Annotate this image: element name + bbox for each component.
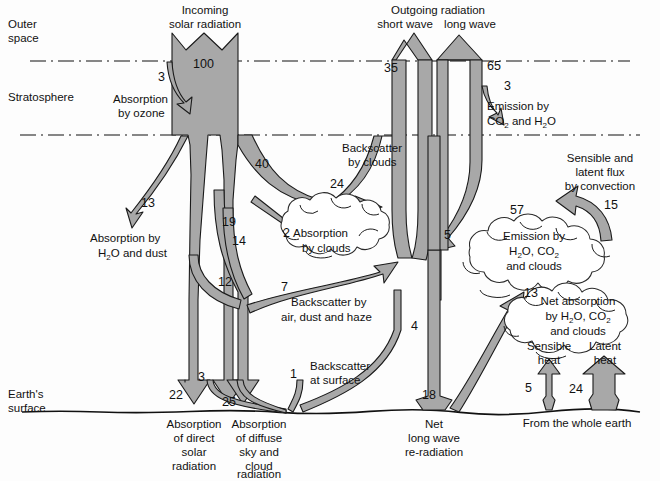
net-absorption-line1: Net absorption xyxy=(541,295,616,307)
absorption-direct-line3: solar xyxy=(182,446,207,458)
value-backscatter-clouds-24: 24 xyxy=(330,177,344,191)
value-absorption-clouds-2: 2 xyxy=(283,226,290,240)
value-outgoing-long-65: 65 xyxy=(487,59,501,73)
net-absorption-line3: and clouds xyxy=(550,325,606,337)
emission-co2-line1: Emission by xyxy=(487,100,549,112)
value-longwave-escape-5: 5 xyxy=(444,228,451,242)
label-from-whole-earth: From the whole earth xyxy=(523,417,632,429)
value-net-longwave-18: 18 xyxy=(422,388,436,402)
label-net-absorption: Net absorption by H2O, CO2 and clouds xyxy=(541,295,616,337)
value-convection-15: 15 xyxy=(604,198,618,212)
value-backscatter-surface-1: 1 xyxy=(290,367,297,381)
net-longwave-line1: Net xyxy=(425,418,444,430)
absorption-diffuse-line1: Absorption xyxy=(232,418,287,430)
value-emission-co2-3: 3 xyxy=(504,79,511,93)
value-net-absorption-13: 13 xyxy=(524,286,538,300)
net-longwave-line2: long wave xyxy=(408,432,460,444)
layer-label-earth-surface-line1: Earth's xyxy=(8,388,44,400)
value-backscatter-air-7: 7 xyxy=(281,280,288,294)
net-longwave-line3: re-radiation xyxy=(405,446,463,458)
radiation-balance-diagram: .arw { fill:#a8a8a8; stroke:#1a1a1a; str… xyxy=(0,0,660,481)
value-emission-clouds-57: 57 xyxy=(510,203,524,217)
value-incoming-solar-100: 100 xyxy=(193,57,214,71)
emission-clouds-line1: Emission by xyxy=(503,230,565,242)
value-latent-heat-24: 24 xyxy=(569,382,583,396)
absorption-diffuse-line5: radiation xyxy=(237,468,281,480)
value-branch-14: 14 xyxy=(232,234,246,248)
emission-clouds-line3: and clouds xyxy=(506,260,562,272)
value-absorption-diffuse-25: 25 xyxy=(222,395,236,409)
value-backscatter-surface-3: 3 xyxy=(198,370,205,384)
value-diffuse-40: 40 xyxy=(255,157,269,171)
outgoing-short-wave-label: short wave xyxy=(377,18,433,30)
value-outgoing-short-35: 35 xyxy=(384,61,398,75)
value-sensible-heat-5: 5 xyxy=(525,381,532,395)
absorption-diffuse-line2: of diffuse xyxy=(236,432,282,444)
backscatter-air-line1: Backscatter by xyxy=(291,296,367,308)
absorption-ozone-line1: Absorption xyxy=(113,93,168,105)
outgoing-radiation-line1: Outgoing radiation xyxy=(391,4,485,16)
absorption-h2o-dust-line1: Absorption by xyxy=(90,232,161,244)
absorption-clouds-line2: by clouds xyxy=(302,242,351,254)
layer-label-outer-space-line1: Outer xyxy=(8,18,37,30)
layer-label-earth-surface-line2: surface xyxy=(8,402,46,414)
backscatter-clouds-line2: by clouds xyxy=(348,156,397,168)
value-branch-12: 12 xyxy=(218,275,232,289)
sensible-latent-line1: Sensible and xyxy=(567,152,634,164)
latent-heat-line1: Latent xyxy=(589,340,622,352)
sensible-heat-line1: Sensible xyxy=(527,340,571,352)
label-emission-h2o-co2-clouds: Emission by H2O, CO2 and clouds xyxy=(503,230,565,272)
incoming-solar-line1: Incoming xyxy=(182,4,229,16)
backscatter-air-line2: air, dust and haze xyxy=(281,311,372,323)
sensible-heat-line2: heat xyxy=(538,354,561,366)
latent-heat-line2: heat xyxy=(594,354,617,366)
value-absorption-ozone-3: 3 xyxy=(158,70,165,84)
value-absorption-direct-22: 22 xyxy=(169,388,183,402)
value-absorption-h2o-dust-13: 13 xyxy=(141,196,155,210)
absorption-ozone-line2: by ozone xyxy=(118,107,165,119)
layer-label-outer-space-line2: space xyxy=(8,32,39,44)
backscatter-surface-line2: at surface xyxy=(310,374,361,386)
layer-label-stratosphere: Stratosphere xyxy=(8,91,74,103)
value-branch-19: 19 xyxy=(222,215,236,229)
sensible-latent-line2: latent flux xyxy=(575,166,624,178)
absorption-clouds-line1: Absorption xyxy=(293,227,348,239)
label-absorption-h2o-dust: Absorption by H2O and dust xyxy=(90,232,168,262)
absorption-direct-line4: radiation xyxy=(172,460,216,472)
backscatter-clouds-line1: Backscatter xyxy=(342,142,402,154)
absorption-diffuse-line3: sky and xyxy=(239,446,279,458)
sensible-latent-line3: by convection xyxy=(565,180,635,192)
value-longwave-surface-4: 4 xyxy=(411,319,418,333)
label-sensible-latent-flux: Sensible and latent flux by convection xyxy=(565,152,635,192)
label-absorption-diffuse: Absorption of diffuse sky and cloud radi… xyxy=(232,418,287,480)
backscatter-surface-line1: Backscatter xyxy=(310,360,370,372)
absorption-direct-line1: Absorption xyxy=(167,418,222,430)
absorption-direct-line2: of direct xyxy=(174,432,216,444)
outgoing-long-wave-label: long wave xyxy=(444,18,496,30)
incoming-solar-line2: solar radiation xyxy=(169,18,241,30)
